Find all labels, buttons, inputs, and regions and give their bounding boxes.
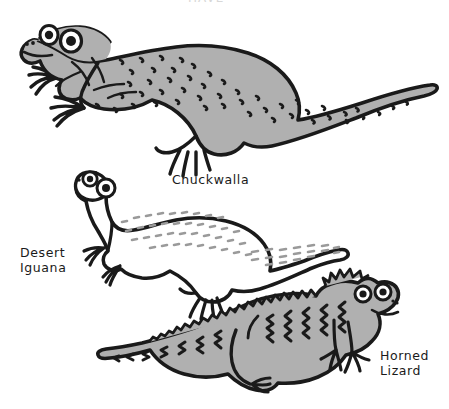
- label-desert-iguana: Desert Iguana: [20, 245, 66, 275]
- figure-chuckwalla: [21, 26, 437, 177]
- desert-iguana-foot-front-far: [84, 248, 104, 265]
- label-chuckwalla: Chuckwalla: [172, 172, 249, 187]
- desert-iguana-body: [76, 173, 348, 302]
- desert-iguana-eye-near: [97, 179, 115, 197]
- horned-lizard-eye-near: [375, 284, 391, 300]
- chuckwalla-eye-near: [61, 30, 82, 52]
- label-horned-lizard: Horned Lizard: [380, 348, 429, 378]
- desert-iguana-eye-far: [83, 172, 97, 186]
- illustration-page: HAVE: [0, 0, 449, 409]
- chuckwalla-eye-far: [40, 26, 58, 45]
- horned-lizard-eye-far: [355, 286, 371, 302]
- chuckwalla-leg-hind: [156, 136, 196, 153]
